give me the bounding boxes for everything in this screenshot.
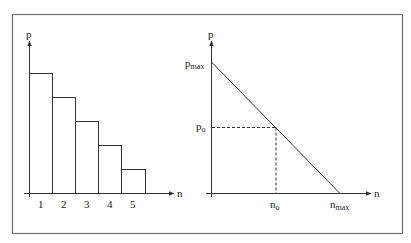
diagram-canvas: p n 1 2 3 4 5 p n pmax po no nmax bbox=[0, 0, 411, 243]
n-max-label: nmax bbox=[330, 198, 349, 212]
y-axis-label: p bbox=[26, 28, 32, 40]
line-chart-panel: p n pmax po no nmax bbox=[185, 28, 380, 212]
y-axis-label: p bbox=[208, 28, 214, 40]
category-label-1: 1 bbox=[38, 198, 44, 210]
bar-chart-panel: p n 1 2 3 4 5 bbox=[24, 28, 183, 210]
x-axis-label: n bbox=[374, 187, 380, 199]
category-label-2: 2 bbox=[61, 198, 67, 210]
bar-1 bbox=[30, 74, 53, 194]
bar-3 bbox=[76, 122, 99, 194]
p-max-label: pmax bbox=[185, 57, 204, 71]
x-axis-label: n bbox=[177, 187, 183, 199]
p-o-label: po bbox=[196, 120, 206, 134]
bar-4 bbox=[99, 146, 122, 194]
bar-5 bbox=[122, 170, 146, 194]
category-label-5: 5 bbox=[130, 198, 136, 210]
bar-2 bbox=[53, 98, 76, 194]
category-label-3: 3 bbox=[84, 198, 90, 210]
bars bbox=[30, 74, 146, 194]
n-o-label: no bbox=[270, 198, 280, 212]
category-label-4: 4 bbox=[107, 198, 113, 210]
